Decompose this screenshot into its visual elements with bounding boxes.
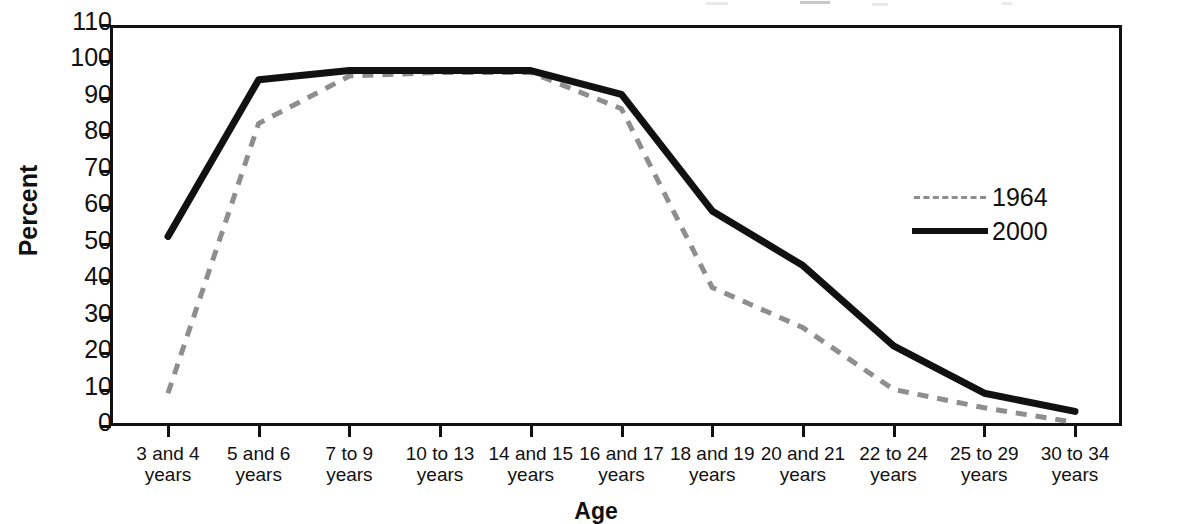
x-tick-mark xyxy=(711,426,714,437)
x-tick-label: 30 to 34years xyxy=(1019,443,1131,485)
x-tick-mark xyxy=(802,426,805,437)
scan-artifact xyxy=(706,2,728,5)
y-tick-label: 0 xyxy=(50,410,112,435)
y-tick-label: 80 xyxy=(50,118,112,143)
x-tick-mark xyxy=(983,426,986,437)
x-tick-label-line2: years xyxy=(1019,464,1131,485)
x-tick-mark xyxy=(530,426,533,437)
legend-label-1964: 1964 xyxy=(988,183,1048,212)
y-axis-title: Percent xyxy=(14,131,43,291)
scan-artifact xyxy=(800,1,830,4)
y-tick-label: 30 xyxy=(50,301,112,326)
x-tick-mark xyxy=(258,426,261,437)
y-tick-label: 100 xyxy=(50,45,112,70)
scan-artifact xyxy=(872,3,888,6)
x-tick-label-line1: 7 to 9 xyxy=(326,443,374,464)
legend-swatch-solid-icon xyxy=(912,224,988,238)
x-tick-mark xyxy=(167,426,170,437)
y-tick-label: 60 xyxy=(50,191,112,216)
x-tick-label-line1: 22 to 24 xyxy=(859,443,928,464)
x-tick-mark xyxy=(893,426,896,437)
x-tick-mark xyxy=(348,426,351,437)
x-tick-mark xyxy=(439,426,442,437)
x-tick-label-line1: 14 and 15 xyxy=(489,443,574,464)
x-tick-mark xyxy=(1074,426,1077,437)
x-tick-label-line1: 16 and 17 xyxy=(579,443,664,464)
legend-label-2000: 2000 xyxy=(988,217,1048,246)
legend: 1964 2000 xyxy=(912,180,1112,248)
x-tick-mark xyxy=(621,426,624,437)
y-tick-label: 70 xyxy=(50,155,112,180)
chart-figure: Percent Age 0102030405060708090100110 3 … xyxy=(0,0,1192,524)
x-axis-title: Age xyxy=(0,498,1192,524)
x-tick-label-line1: 5 and 6 xyxy=(227,443,290,464)
scan-artifact xyxy=(1002,2,1012,5)
x-tick-label-line1: 18 and 19 xyxy=(670,443,755,464)
x-tick-label-line1: 3 and 4 xyxy=(136,443,199,464)
x-tick-label-line1: 30 to 34 xyxy=(1041,443,1110,464)
y-tick-label: 20 xyxy=(50,337,112,362)
y-tick-label: 10 xyxy=(50,374,112,399)
legend-item-1964: 1964 xyxy=(912,180,1112,214)
x-tick-label-line1: 20 and 21 xyxy=(761,443,846,464)
x-tick-label-line1: 10 to 13 xyxy=(406,443,475,464)
y-tick-label: 110 xyxy=(50,9,112,34)
x-tick-label-line1: 25 to 29 xyxy=(950,443,1019,464)
y-tick-label: 40 xyxy=(50,264,112,289)
legend-swatch-dashed-icon xyxy=(912,190,988,204)
y-tick-label: 90 xyxy=(50,82,112,107)
y-tick-label: 50 xyxy=(50,228,112,253)
legend-item-2000: 2000 xyxy=(912,214,1112,248)
